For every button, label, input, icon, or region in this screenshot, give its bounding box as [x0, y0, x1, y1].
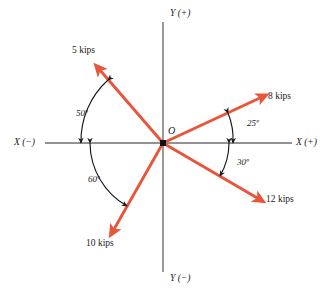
angle-arc-30 — [220, 143, 229, 176]
angle-arc-25 — [228, 113, 233, 143]
axis-label-y-negative: Y (−) — [170, 274, 190, 284]
force-vector-10-kips — [113, 143, 163, 231]
force-label-12-kips: 12 kips — [266, 195, 294, 205]
angle-label-50: 50º — [76, 109, 88, 118]
force-vector-12-kips — [163, 143, 259, 199]
force-label-8-kips: 8 kips — [268, 92, 291, 102]
axis-label-x-negative: X (−) — [14, 138, 35, 148]
angle-label-25: 25º — [247, 119, 259, 128]
axis-label-x-positive: X (+) — [296, 138, 317, 148]
diagram-canvas — [0, 0, 334, 296]
origin-dot — [160, 140, 166, 146]
force-label-10-kips: 10 kips — [86, 239, 114, 249]
force-label-5-kips: 5 kips — [72, 46, 95, 56]
axis-label-y-positive: Y (+) — [170, 9, 190, 19]
force-diagram: X (−) X (+) Y (+) Y (−) O 5 kips 8 kips … — [0, 0, 334, 296]
angle-label-30: 30º — [237, 158, 249, 167]
origin-label: O — [168, 126, 175, 136]
force-vector-5-kips — [99, 69, 163, 143]
angle-label-60: 60º — [88, 175, 100, 184]
